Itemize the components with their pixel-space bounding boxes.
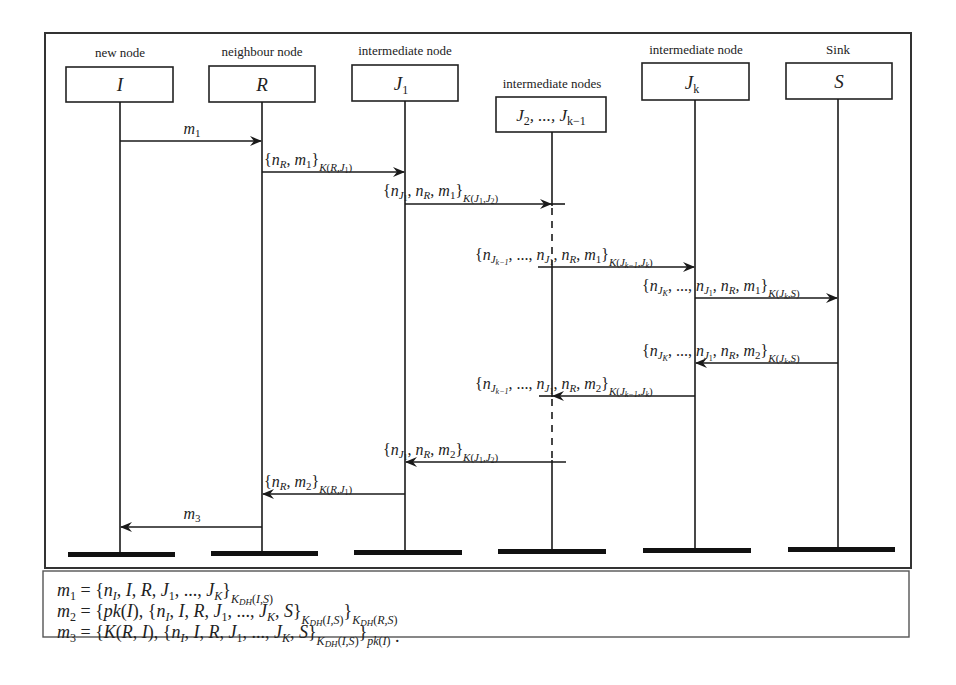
lifeline-terminators (68, 547, 895, 557)
message-label-10: m3 (183, 505, 201, 524)
terminator-bar (68, 552, 175, 557)
participant-caption: intermediate node (649, 42, 743, 57)
diagram-frame (45, 33, 911, 568)
message-labels: m1 {nR, m1}K(R,J1) {nJ1, nR, m1}K(J1,J2)… (183, 120, 800, 524)
participant-sink: Sink S (786, 42, 892, 99)
participant-label: S (834, 71, 844, 92)
participant-caption: neighbour node (221, 44, 302, 59)
participant-caption: intermediate nodes (503, 76, 602, 91)
participant-intermediate-node-jk: intermediate node Jk (642, 42, 749, 100)
terminator-bar (643, 548, 751, 553)
lifelines (120, 99, 838, 554)
sequence-diagram: new node I neighbour node R intermediate… (0, 0, 956, 685)
message-label-1: m1 (183, 120, 200, 139)
participant-caption: new node (95, 45, 145, 60)
participant-neighbour-node: neighbour node R (209, 44, 315, 102)
participant-caption: Sink (826, 42, 850, 57)
message-label-3: {nJ1, nR, m1}K(J1,J2) (383, 182, 499, 206)
participant-intermediate-node-j1: intermediate node J1 (352, 43, 458, 101)
participant-caption: intermediate node (358, 43, 452, 58)
terminator-bar (354, 550, 462, 555)
participant-label: R (255, 74, 268, 95)
participant-intermediate-nodes: intermediate nodes J2, ..., Jk−1 (496, 76, 606, 132)
participant-new-node: new node I (66, 45, 173, 102)
terminator-bar (498, 549, 606, 554)
terminator-bar (788, 547, 895, 552)
terminator-bar (211, 551, 318, 556)
